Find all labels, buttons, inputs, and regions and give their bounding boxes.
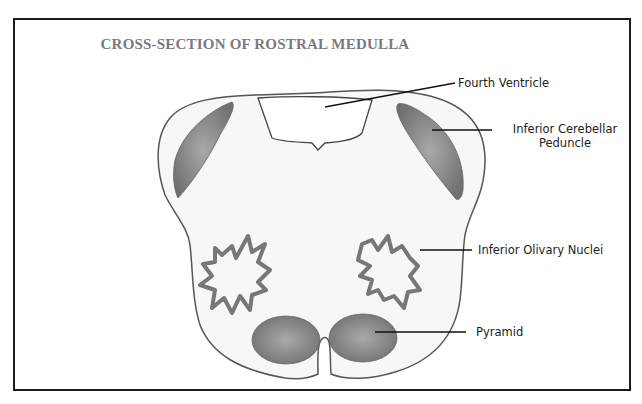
label-pyramid: Pyramid: [476, 325, 523, 339]
label-inferior-cerebellar-peduncle-line1: Inferior Cerebellar: [505, 122, 625, 136]
label-inferior-cerebellar-peduncle-line2: Peduncle: [505, 136, 625, 150]
label-inferior-cerebellar-peduncle: Inferior Cerebellar Peduncle: [505, 122, 625, 150]
medulla-cross-section: [0, 0, 642, 404]
label-inferior-olivary-nuclei: Inferior Olivary Nuclei: [478, 243, 603, 257]
right-pyramid: [329, 314, 397, 362]
left-pyramid: [252, 316, 320, 364]
label-fourth-ventricle: Fourth Ventricle: [458, 76, 549, 90]
